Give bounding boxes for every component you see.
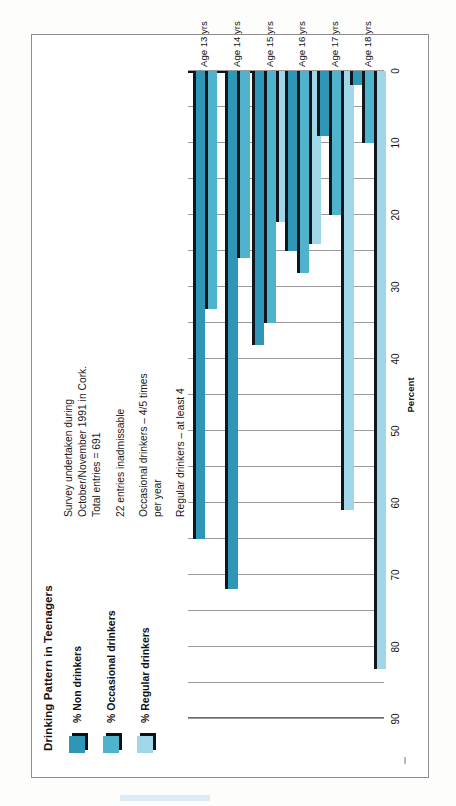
bar-age-14-yrs-occasional-drinkers bbox=[240, 71, 250, 258]
category-label: Age 16 yrs bbox=[296, 33, 307, 67]
bar-top-edge bbox=[317, 71, 320, 136]
scan-artifact bbox=[404, 757, 406, 764]
bar-top-edge bbox=[350, 71, 353, 85]
legend-label-occasional-drinkers: % Occasional drinkers bbox=[105, 610, 117, 723]
bar-top-edge bbox=[252, 71, 255, 345]
x-tick-label: 70 bbox=[390, 569, 401, 580]
note-line: Survey undertaken during bbox=[62, 57, 76, 517]
x-tick-label: 90 bbox=[390, 713, 401, 724]
category-row bbox=[221, 71, 254, 719]
category-row bbox=[286, 71, 319, 719]
legend-swatch-non-drinkers bbox=[69, 733, 88, 753]
x-axis-title: Percent bbox=[405, 71, 416, 719]
category-labels: Age 13 yrsAge 14 yrsAge 15 yrsAge 16 yrs… bbox=[188, 33, 384, 67]
category-row bbox=[188, 71, 221, 719]
category-label: Age 15 yrs bbox=[264, 33, 275, 67]
bar-fill bbox=[208, 71, 218, 309]
x-tick-label: 0 bbox=[390, 68, 401, 74]
bar-fill bbox=[240, 71, 250, 258]
scan-edge-band bbox=[120, 795, 210, 801]
note-line: per year bbox=[151, 57, 165, 517]
legend-label-non-drinkers: % Non drinkers bbox=[71, 646, 83, 723]
bar-top-edge bbox=[193, 71, 196, 539]
plot-band: 0102030405060708090 Percent Age 13 yrsAg… bbox=[184, 35, 426, 775]
bar-top-edge bbox=[309, 71, 312, 244]
legend-swatch-regular-drinkers bbox=[137, 733, 156, 753]
bar-fill bbox=[377, 71, 387, 669]
category-label: Age 13 yrs bbox=[198, 33, 209, 67]
category-row bbox=[319, 71, 352, 719]
category-label: Age 18 yrs bbox=[362, 33, 373, 67]
bar-top-edge bbox=[276, 71, 279, 222]
plot-area bbox=[188, 71, 384, 719]
bar-top-edge bbox=[205, 71, 208, 309]
x-tick-label: 60 bbox=[390, 497, 401, 508]
bar-top-edge bbox=[264, 71, 267, 323]
swatch-fill bbox=[69, 736, 85, 753]
note-line: October/November 1991 in Cork. bbox=[76, 57, 90, 517]
bar-top-edge bbox=[374, 71, 377, 669]
scanned-chart-page: Drinking Pattern in Teenagers % Non drin… bbox=[0, 0, 456, 806]
note-block: Survey undertaken duringOctober/November… bbox=[62, 57, 105, 517]
x-tick-label: 20 bbox=[390, 209, 401, 220]
category-label: Age 17 yrs bbox=[329, 33, 340, 67]
note-line: Total entries = 691 bbox=[90, 57, 104, 517]
bar-top-edge bbox=[237, 71, 240, 258]
note-line: 22 entries inadmissable bbox=[114, 57, 128, 517]
category-label: Age 14 yrs bbox=[231, 33, 242, 67]
swatch-fill bbox=[137, 736, 153, 753]
chart-title: Drinking Pattern in Teenagers bbox=[42, 585, 54, 751]
category-row bbox=[351, 71, 384, 719]
x-tick-label: 10 bbox=[390, 137, 401, 148]
note-block: Occasional drinkers – 4/5 timesper year bbox=[137, 57, 165, 517]
x-tick-label: 80 bbox=[390, 641, 401, 652]
bar-age-18-yrs-regular-drinkers bbox=[377, 71, 387, 669]
x-tick-label: 50 bbox=[390, 425, 401, 436]
legend-swatch-occasional-drinkers bbox=[103, 733, 122, 753]
rotated-figure-canvas: Drinking Pattern in Teenagers % Non drin… bbox=[32, 35, 426, 775]
legend-band: Drinking Pattern in Teenagers % Non drin… bbox=[32, 35, 184, 775]
note-line: Occasional drinkers – 4/5 times bbox=[137, 57, 151, 517]
bar-top-edge bbox=[297, 71, 300, 273]
x-tick-label: 30 bbox=[390, 281, 401, 292]
x-tick-label: 40 bbox=[390, 353, 401, 364]
bar-top-edge bbox=[329, 71, 332, 215]
bar-age-13-yrs-occasional-drinkers bbox=[208, 71, 218, 309]
swatch-fill bbox=[103, 736, 119, 753]
bar-top-edge bbox=[285, 71, 288, 251]
bar-top-edge bbox=[362, 71, 365, 143]
category-row bbox=[253, 71, 286, 719]
bar-top-edge bbox=[341, 71, 344, 510]
note-block: 22 entries inadmissable bbox=[114, 57, 128, 517]
legend-label-regular-drinkers: % Regular drinkers bbox=[139, 627, 151, 723]
bar-top-edge bbox=[225, 71, 228, 589]
